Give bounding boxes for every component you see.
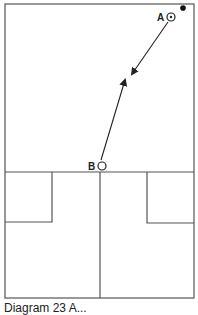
player-a-label: A <box>157 12 164 23</box>
player-b-label: B <box>88 161 95 172</box>
player-b-marker-icon <box>98 162 106 170</box>
player-a-center-dot-icon <box>170 16 172 18</box>
left-side-box <box>5 172 52 222</box>
arrow-b-movement <box>101 80 125 160</box>
diagram-caption: Diagram 23 A... <box>4 301 87 315</box>
ball-dot-icon <box>180 5 186 11</box>
right-side-box <box>147 172 194 223</box>
arrow-a-movement <box>132 22 168 74</box>
